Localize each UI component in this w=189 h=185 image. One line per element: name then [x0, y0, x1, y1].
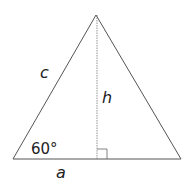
- label-c: c: [40, 63, 49, 82]
- triangle: [13, 15, 181, 159]
- right-angle-marker: [97, 149, 107, 159]
- label-a: a: [56, 163, 66, 182]
- label-angle: 60°: [31, 140, 58, 158]
- label-h: h: [102, 88, 112, 107]
- triangle-diagram: c h 60° a: [0, 0, 189, 185]
